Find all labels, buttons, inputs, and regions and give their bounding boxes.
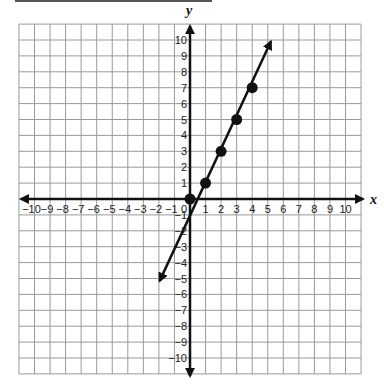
data-point bbox=[231, 114, 242, 125]
coordinate-plane: −10−9−8−7−6−5−4−3−2−112345678910−10−9−8−… bbox=[0, 0, 384, 386]
data-point bbox=[185, 194, 196, 205]
x-tick-label: −10 bbox=[22, 203, 41, 215]
x-tick-label: 10 bbox=[339, 203, 351, 215]
x-tick-label: 9 bbox=[327, 203, 333, 215]
x-tick-label: −8 bbox=[56, 203, 69, 215]
x-tick-label: 7 bbox=[296, 203, 302, 215]
y-tick-label: 6 bbox=[181, 98, 187, 110]
x-tick-label: −2 bbox=[150, 203, 163, 215]
y-tick-label: −10 bbox=[168, 352, 187, 364]
data-point bbox=[216, 146, 227, 157]
x-axis-label: x bbox=[369, 192, 377, 207]
y-tick-label: 2 bbox=[181, 161, 187, 173]
x-tick-label: −7 bbox=[72, 203, 85, 215]
y-tick-label: 7 bbox=[181, 82, 187, 94]
y-tick-label: 9 bbox=[181, 50, 187, 62]
x-tick-label: −5 bbox=[103, 203, 116, 215]
y-tick-label: 4 bbox=[181, 129, 187, 141]
origin-label: 0 bbox=[181, 203, 187, 215]
y-tick-label: −5 bbox=[174, 273, 187, 285]
y-tick-label: −7 bbox=[174, 304, 187, 316]
y-tick-label: −9 bbox=[174, 336, 187, 348]
x-tick-label: 3 bbox=[234, 203, 240, 215]
y-tick-label: 5 bbox=[181, 114, 187, 126]
x-tick-label: −3 bbox=[134, 203, 147, 215]
line-y-equals-2x-minus-1 bbox=[160, 42, 271, 281]
y-tick-label: −8 bbox=[174, 320, 187, 332]
x-tick-label: 1 bbox=[202, 203, 208, 215]
y-tick-label: −6 bbox=[174, 288, 187, 300]
x-tick-label: 6 bbox=[280, 203, 286, 215]
data-point bbox=[247, 82, 258, 93]
x-tick-label: −4 bbox=[119, 203, 132, 215]
x-tick-label: 2 bbox=[218, 203, 224, 215]
y-tick-label: 10 bbox=[175, 34, 187, 46]
y-tick-label: 3 bbox=[181, 145, 187, 157]
x-tick-label: 4 bbox=[249, 203, 255, 215]
x-tick-label: 8 bbox=[311, 203, 317, 215]
plotted-line bbox=[160, 42, 271, 281]
y-axis-label: y bbox=[184, 3, 193, 18]
y-tick-label: −4 bbox=[174, 257, 187, 269]
x-tick-label: 5 bbox=[265, 203, 271, 215]
data-point bbox=[200, 178, 211, 189]
y-tick-label: 1 bbox=[181, 177, 187, 189]
x-tick-label: −9 bbox=[41, 203, 54, 215]
x-tick-label: −6 bbox=[87, 203, 100, 215]
y-tick-label: 8 bbox=[181, 66, 187, 78]
